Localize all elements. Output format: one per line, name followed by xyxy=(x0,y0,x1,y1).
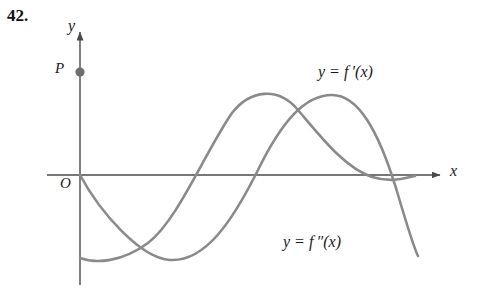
figure-page: 42. y = f ′(x) y = f ″(x) y x O P xyxy=(0,0,479,296)
graph-figure xyxy=(0,0,479,296)
curve-first-derivative xyxy=(80,94,415,261)
y-axis-label: y xyxy=(68,17,75,35)
curve-label-second-derivative: y = f ″(x) xyxy=(283,233,341,251)
point-p-label: P xyxy=(55,60,64,77)
x-axis-label: x xyxy=(450,162,457,180)
origin-label: O xyxy=(60,175,71,192)
curve-label-first-derivative: y = f ′(x) xyxy=(318,63,373,81)
curve-second-derivative xyxy=(80,95,418,260)
point-p-marker xyxy=(75,67,84,76)
